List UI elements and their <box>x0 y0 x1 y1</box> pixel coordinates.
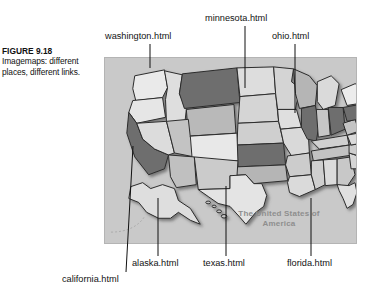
state-pennsylvania[interactable] <box>343 104 356 122</box>
figure-caption-text: Imagemaps: different places, different l… <box>2 56 90 77</box>
state-washington[interactable] <box>133 70 168 101</box>
callout-label-alaska[interactable]: alaska.html <box>132 258 178 269</box>
state-arkansas[interactable] <box>286 153 312 177</box>
callout-label-minnesota[interactable]: minnesota.html <box>205 13 267 24</box>
state-kansas[interactable] <box>237 143 286 167</box>
state-alabama[interactable] <box>323 159 337 186</box>
state-south-dakota[interactable] <box>238 94 279 124</box>
figure-number: FIGURE 9.18 <box>2 46 90 56</box>
usa-imagemap[interactable]: The United States of America <box>104 57 357 244</box>
callout-label-california[interactable]: california.html <box>62 274 119 285</box>
state-indiana[interactable] <box>316 109 330 137</box>
aleutian-islands <box>111 216 145 232</box>
state-alaska[interactable] <box>129 183 200 225</box>
state-new-york[interactable] <box>341 84 356 106</box>
state-north-dakota[interactable] <box>237 67 276 97</box>
state-louisiana[interactable] <box>288 175 316 197</box>
state-wyoming[interactable] <box>186 104 236 136</box>
callout-label-texas[interactable]: texas.html <box>203 258 245 269</box>
state-west-virginia[interactable] <box>343 119 356 135</box>
state-ohio[interactable] <box>328 107 345 135</box>
state-iowa[interactable] <box>278 109 302 129</box>
callout-label-washington[interactable]: washington.html <box>105 31 171 42</box>
state-montana[interactable] <box>179 68 240 109</box>
state-florida[interactable] <box>337 183 356 209</box>
callout-label-florida[interactable]: florida.html <box>287 258 332 269</box>
callout-label-ohio[interactable]: ohio.html <box>272 31 309 42</box>
state-nebraska[interactable] <box>237 121 284 145</box>
figure-container: FIGURE 9.18 Imagemaps: different places,… <box>0 0 372 298</box>
state-arizona[interactable] <box>168 155 196 188</box>
usa-map-graphic <box>105 58 356 243</box>
state-michigan[interactable] <box>317 76 339 110</box>
figure-caption: FIGURE 9.18 Imagemaps: different places,… <box>2 46 90 77</box>
